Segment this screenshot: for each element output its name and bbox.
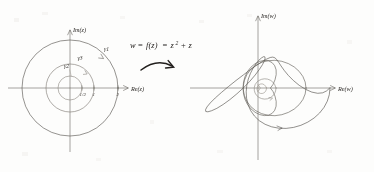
z-tick-label-half: 1/2 <box>80 92 87 97</box>
z-real-axis-label: Re(z) <box>130 85 144 93</box>
figure-canvas: Re(z) Im(z) 1/2 1 2 γ1 γ3 γ2 <box>0 0 374 172</box>
z-plane-svg: Re(z) Im(z) 1/2 1 2 γ1 γ3 γ2 <box>0 0 187 172</box>
w-real-axis-label: Re(w) <box>337 85 353 93</box>
scan-noise-right <box>199 14 352 153</box>
w-plane-svg: Re(w) Im(w) <box>187 0 374 172</box>
w-curve-image-gamma1 <box>206 57 331 129</box>
z-curve-gamma3-direction-arrow <box>83 71 87 75</box>
w-plane-panel: Re(w) Im(w) <box>187 0 374 172</box>
z-curve-gamma3-label: γ3 <box>78 55 83 61</box>
z-curve-gamma2-label: γ2 <box>64 63 69 69</box>
w-imag-axis-label: Im(w) <box>260 12 276 20</box>
z-curve-gamma1-direction-arrow <box>99 54 104 58</box>
z-curve-gamma1-label: γ1 <box>104 46 109 52</box>
w-curve-image-gamma2 <box>254 79 276 99</box>
z-imag-axis-label: Im(z) <box>72 26 86 34</box>
z-plane-panel: Re(z) Im(z) 1/2 1 2 γ1 γ3 γ2 <box>0 0 187 172</box>
